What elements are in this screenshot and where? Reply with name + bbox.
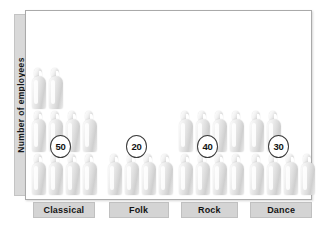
person-body	[284, 162, 298, 195]
person-body	[267, 162, 281, 195]
person-icon	[300, 153, 315, 196]
person-icon	[82, 153, 97, 196]
person-body	[49, 162, 63, 195]
person-icon	[212, 153, 227, 196]
plot-area: 50204030	[25, 10, 312, 200]
category-group-classical: 50	[26, 11, 100, 199]
label-spacer	[169, 202, 181, 218]
category-group-folk: 20	[100, 11, 171, 199]
person-body	[83, 162, 97, 195]
person-body	[142, 162, 156, 195]
person-icon	[31, 67, 46, 110]
pictogram-chart: Number of employees 50204030 ClassicalFo…	[0, 0, 336, 233]
person-icon	[107, 153, 122, 196]
person-body	[179, 162, 193, 195]
value-bubble-folk: 20	[126, 135, 147, 158]
person-icon	[124, 153, 139, 196]
category-group-dance: 30	[242, 11, 311, 199]
person-body	[32, 119, 46, 152]
person-icon	[31, 153, 46, 196]
person-body	[125, 162, 139, 195]
person-icon	[178, 110, 193, 153]
person-body	[196, 162, 210, 195]
category-label-dance: Dance	[250, 202, 312, 218]
category-label-folk: Folk	[109, 202, 169, 218]
icon-row	[106, 153, 171, 196]
person-icon	[249, 153, 264, 196]
icon-stack	[30, 67, 100, 196]
label-spacer	[238, 202, 250, 218]
person-icon	[249, 110, 264, 153]
icon-row	[30, 153, 100, 196]
person-icon	[195, 153, 210, 196]
person-body	[108, 162, 122, 195]
person-icon	[266, 153, 281, 196]
icon-stack	[106, 153, 171, 196]
person-icon	[65, 153, 80, 196]
person-icon	[31, 110, 46, 153]
value-bubble-rock: 40	[197, 135, 218, 158]
value-bubble-dance: 30	[268, 135, 289, 158]
person-body	[49, 76, 63, 109]
person-body	[32, 76, 46, 109]
person-body	[301, 162, 315, 195]
category-label-rock: Rock	[181, 202, 239, 218]
person-body	[83, 119, 97, 152]
label-spacer	[95, 202, 109, 218]
person-icon	[48, 153, 63, 196]
category-label-classical: Classical	[33, 202, 95, 218]
person-body	[250, 119, 264, 152]
icon-row	[248, 153, 311, 196]
person-body	[66, 162, 80, 195]
category-groups: 50204030	[26, 11, 311, 199]
value-bubble-classical: 50	[50, 135, 71, 158]
person-body	[32, 162, 46, 195]
person-icon	[283, 153, 298, 196]
person-icon	[82, 110, 97, 153]
category-group-rock: 40	[171, 11, 242, 199]
category-label-row: ClassicalFolkRockDance	[25, 202, 312, 218]
person-body	[179, 119, 193, 152]
person-body	[213, 162, 227, 195]
person-icon	[48, 67, 63, 110]
person-icon	[141, 153, 156, 196]
icon-row	[177, 153, 242, 196]
person-icon	[178, 153, 193, 196]
label-spacer	[25, 202, 33, 218]
person-body	[250, 162, 264, 195]
icon-row	[30, 67, 100, 110]
